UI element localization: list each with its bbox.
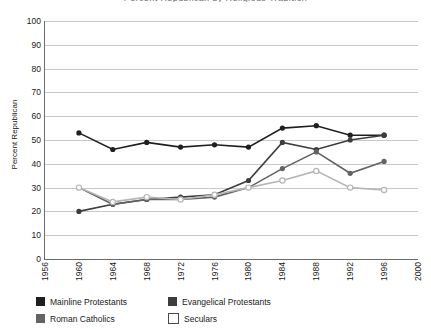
chart-legend: Mainline ProtestantsEvangelical Protesta… xyxy=(36,293,336,327)
legend-swatch-icon xyxy=(36,297,45,306)
legend-label: Mainline Protestants xyxy=(50,297,127,307)
legend-swatch-icon xyxy=(168,313,179,324)
x-tick-label: 1972 xyxy=(176,262,185,281)
legend-item-roman-catholics[interactable]: Roman Catholics xyxy=(36,314,168,324)
x-tick-label: 1992 xyxy=(346,262,355,281)
x-tick-label: 1960 xyxy=(75,262,84,281)
data-point xyxy=(348,133,353,138)
legend-item-mainline-protestants[interactable]: Mainline Protestants xyxy=(36,297,168,307)
legend-item-seculars[interactable]: Seculars xyxy=(168,313,336,324)
legend-label: Roman Catholics xyxy=(50,314,115,324)
data-point xyxy=(76,130,81,135)
x-tick-label: 1968 xyxy=(142,262,151,281)
x-tick-label: 1976 xyxy=(210,262,219,281)
data-point xyxy=(246,178,251,183)
y-tick-label: 100 xyxy=(27,17,41,26)
series-mainline-protestants xyxy=(76,123,386,152)
x-tick-label: 1984 xyxy=(278,262,287,281)
legend-label: Evangelical Protestants xyxy=(182,297,271,307)
x-tick-label: 2000 xyxy=(414,262,423,281)
data-point xyxy=(110,199,115,204)
chart-figure: Percent Republican by Religious Traditio… xyxy=(0,0,431,329)
y-tick-label: 20 xyxy=(32,207,41,216)
y-axis-label: Percent Republican xyxy=(10,80,19,190)
x-tick-label: 1988 xyxy=(312,262,321,281)
series-seculars xyxy=(76,168,386,204)
x-tick-label: 1980 xyxy=(244,262,253,281)
data-point xyxy=(348,171,353,176)
y-tick-label: 30 xyxy=(32,183,41,192)
y-tick-label: 50 xyxy=(32,136,41,145)
data-series-layer xyxy=(45,21,418,259)
plot-area: 0102030405060708090100 19561960196419681… xyxy=(44,21,418,260)
data-point xyxy=(314,149,319,154)
y-tick-label: 10 xyxy=(32,231,41,240)
data-point xyxy=(348,137,353,142)
chart-title: Percent Republican by Religious Traditio… xyxy=(0,0,431,2)
y-tick-label: 40 xyxy=(32,160,41,169)
y-tick-label: 80 xyxy=(32,64,41,73)
legend-swatch-icon xyxy=(36,314,45,323)
x-tick-label: 1964 xyxy=(109,262,118,281)
data-point xyxy=(76,185,81,190)
series-evangelical-protestants xyxy=(76,133,386,214)
data-point xyxy=(382,159,387,164)
data-point xyxy=(382,133,387,138)
data-point xyxy=(110,147,115,152)
legend-item-evangelical-protestants[interactable]: Evangelical Protestants xyxy=(168,297,336,307)
data-point xyxy=(314,123,319,128)
data-point xyxy=(144,140,149,145)
legend-label: Seculars xyxy=(184,314,217,324)
data-point xyxy=(76,209,81,214)
data-point xyxy=(144,195,149,200)
data-point xyxy=(178,197,183,202)
data-point xyxy=(178,145,183,150)
data-point xyxy=(212,192,217,197)
data-point xyxy=(280,126,285,131)
data-point xyxy=(246,145,251,150)
legend-swatch-icon xyxy=(168,297,177,306)
data-point xyxy=(212,142,217,147)
y-tick-label: 60 xyxy=(32,112,41,121)
x-tick-label: 1996 xyxy=(380,262,389,281)
data-point xyxy=(314,168,319,173)
data-point xyxy=(280,178,285,183)
data-point xyxy=(280,140,285,145)
data-point xyxy=(246,185,251,190)
data-point xyxy=(280,166,285,171)
y-tick-label: 90 xyxy=(32,41,41,50)
x-tick-label: 1956 xyxy=(41,262,50,281)
data-point xyxy=(382,187,387,192)
y-tick-label: 70 xyxy=(32,88,41,97)
series-roman-catholics xyxy=(76,149,386,207)
data-point xyxy=(348,185,353,190)
